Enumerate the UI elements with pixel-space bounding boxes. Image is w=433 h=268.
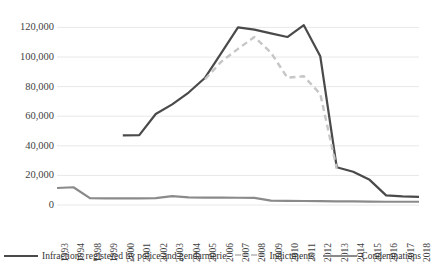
y-axis-tick-label: 80,000 xyxy=(2,82,54,93)
y-axis-tick-label: 20,000 xyxy=(2,170,54,181)
y-axis-tick-label: 60,000 xyxy=(2,111,54,122)
y-axis-tick-label: 40,000 xyxy=(2,141,54,152)
series-line xyxy=(57,187,419,202)
legend-swatch-icon xyxy=(235,254,265,259)
y-axis: 020,00040,00060,00080,000100,000120,000 xyxy=(0,0,54,215)
series-line xyxy=(123,25,419,197)
legend-swatch-icon xyxy=(4,255,38,258)
legend-entry[interactable]: Infractions registered by police and gen… xyxy=(4,251,226,262)
chart-legend: Infractions registered by police and gen… xyxy=(0,246,425,266)
legend-label: Indictments xyxy=(269,251,314,262)
y-axis-tick-label: 100,000 xyxy=(2,52,54,63)
legend-label: Infractions registered by police and gen… xyxy=(42,251,226,262)
y-axis-tick-label: 120,000 xyxy=(2,22,54,33)
legend-entry[interactable]: Condemnations xyxy=(323,251,421,262)
plot-svg xyxy=(0,0,425,215)
x-axis: 1993199419981999200020012002200320042005… xyxy=(0,205,425,250)
legend-swatch-icon xyxy=(323,255,357,258)
legend-entry[interactable]: Indictments xyxy=(235,251,314,262)
plot-area xyxy=(0,0,425,215)
legend-label: Condemnations xyxy=(361,251,421,262)
